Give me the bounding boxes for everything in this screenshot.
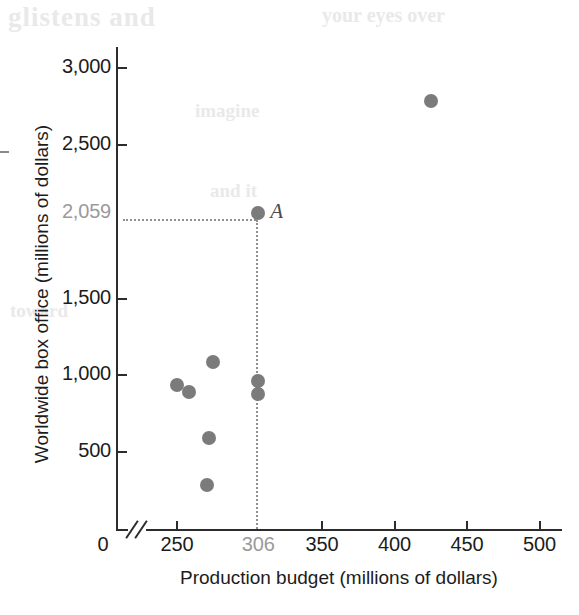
data-point-label: A — [270, 199, 283, 224]
y-tick-label: 1,000 — [49, 362, 111, 385]
y-tick-label: 2,059 — [49, 200, 111, 223]
data-point — [251, 374, 265, 388]
y-tick-mark — [118, 451, 127, 453]
y-tick-mark — [118, 298, 127, 300]
data-point — [200, 478, 214, 492]
x-tick-label: 306 — [223, 533, 293, 556]
x-tick-mark — [466, 521, 468, 530]
y-tick-label: 2,500 — [49, 132, 111, 155]
y-tick-mark — [118, 374, 127, 376]
data-point — [424, 94, 438, 108]
data-point — [251, 387, 265, 401]
chart-screenshot: glistens and your eyes over imagine and … — [0, 0, 579, 615]
x-tick-label: 450 — [432, 533, 502, 556]
x-tick-mark — [394, 521, 396, 530]
data-point-A — [251, 206, 265, 220]
x-tick-mark — [321, 521, 323, 530]
y-axis-line — [116, 47, 118, 531]
x-axis-title: Production budget (millions of dollars) — [180, 567, 498, 589]
x-tick-label: 500 — [505, 533, 575, 556]
x-tick-label: 250 — [142, 533, 212, 556]
x-tick-label: 400 — [360, 533, 430, 556]
scatter-plot: 0 5001,0001,5002,0592,5003,000 250306350… — [0, 0, 579, 615]
x-axis-origin-label: 0 — [90, 533, 116, 556]
y-axis-title: Worldwide box office (millions of dollar… — [31, 84, 53, 504]
data-point — [182, 385, 196, 399]
data-point — [202, 431, 216, 445]
y-tick-label: 1,500 — [49, 286, 111, 309]
y-tick-mark — [118, 144, 127, 146]
x-tick-label: 350 — [287, 533, 357, 556]
x-axis-line — [116, 529, 562, 531]
y-tick-mark — [118, 67, 127, 69]
x-tick-mark — [176, 521, 178, 530]
y-tick-label: 500 — [49, 439, 111, 462]
data-point — [206, 355, 220, 369]
guide-line-horizontal — [123, 219, 256, 221]
x-tick-mark — [539, 521, 541, 530]
y-tick-label: 3,000 — [49, 55, 111, 78]
